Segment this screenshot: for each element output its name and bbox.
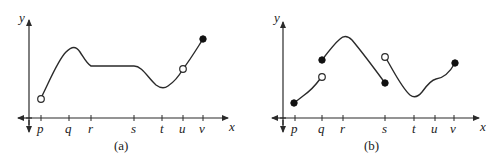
open-point-p bbox=[38, 96, 45, 103]
tick-label-p: p bbox=[290, 121, 298, 136]
tick-label-q: q bbox=[318, 121, 325, 136]
closed-point-p bbox=[291, 100, 297, 106]
open-point-u bbox=[180, 66, 187, 73]
tick-label-v: v bbox=[199, 121, 205, 136]
tick-label-u: u bbox=[431, 121, 438, 136]
tick-label-r: r bbox=[340, 121, 346, 136]
x-axis-label: x bbox=[479, 119, 486, 134]
open-point-q bbox=[319, 74, 326, 81]
closed-point-v bbox=[452, 60, 458, 66]
caption-b: (b) bbox=[364, 138, 379, 153]
tick-label-u: u bbox=[179, 121, 186, 136]
closed-point-s bbox=[382, 80, 388, 86]
segment-q-s bbox=[322, 36, 385, 83]
closed-point-v bbox=[200, 36, 206, 42]
function-curve bbox=[42, 39, 203, 96]
tick-label-q: q bbox=[65, 121, 72, 136]
tick-label-p: p bbox=[36, 121, 44, 136]
tick-label-t: t bbox=[412, 121, 416, 136]
y-axis-label: y bbox=[272, 10, 280, 25]
closed-point-q bbox=[319, 57, 325, 63]
open-point-s bbox=[382, 54, 389, 61]
tick-label-s: s bbox=[131, 121, 136, 136]
segment-p-q bbox=[294, 79, 320, 103]
graph-b: y x p q r s t u v (b) bbox=[272, 10, 486, 153]
caption-a: (a) bbox=[114, 138, 128, 153]
graph-a: y x p q r s t u v (a) bbox=[17, 10, 235, 153]
figure-canvas: y x p q r s t u v (a) y x bbox=[0, 0, 502, 164]
tick-label-t: t bbox=[160, 121, 164, 136]
segment-s-v bbox=[387, 60, 455, 97]
y-axis-label: y bbox=[17, 10, 25, 25]
tick-label-r: r bbox=[88, 121, 94, 136]
x-axis-label: x bbox=[228, 119, 235, 134]
tick-label-v: v bbox=[450, 121, 456, 136]
tick-label-s: s bbox=[382, 121, 387, 136]
